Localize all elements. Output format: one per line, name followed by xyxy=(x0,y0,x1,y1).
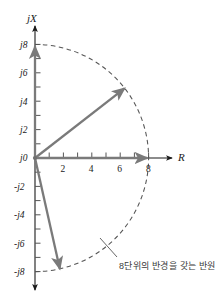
phasor-vectors xyxy=(33,47,147,269)
y-tick-label-j2: j2 xyxy=(18,125,28,135)
y-tick-label-neg-j6: -j6 xyxy=(14,239,25,249)
y-tick-label-neg-j2: -j2 xyxy=(14,182,25,192)
y-tick-label-neg-j8: -j8 xyxy=(14,267,25,277)
semicircle-caption: 8단위의 반경을 갖는 반원 xyxy=(119,259,216,272)
origin-dot xyxy=(33,156,37,160)
y-tick-label-j0: j0 xyxy=(18,153,28,163)
x-tick-label-4: 4 xyxy=(89,164,94,174)
vector-lower-right xyxy=(35,158,60,269)
real-axis-label: R xyxy=(177,151,185,163)
x-tick-label-8: 8 xyxy=(146,164,151,174)
y-tick-label-neg-j4: -j4 xyxy=(14,210,25,220)
imaginary-axis-label: jX xyxy=(25,12,38,24)
vector-upper-right xyxy=(35,88,125,158)
x-tick-label-6: 6 xyxy=(117,164,122,174)
caption-leader-line xyxy=(100,238,117,257)
plot-canvas: jX R 2 4 6 8 j8 j6 j4 j2 j0 -j2 -j4 -j6 … xyxy=(0,0,219,301)
y-tick-label-j4: j4 xyxy=(18,97,28,107)
y-tick-label-j6: j6 xyxy=(18,68,28,78)
complex-plane-figure: jX R 2 4 6 8 j8 j6 j4 j2 j0 -j2 -j4 -j6 … xyxy=(0,0,219,301)
x-tick-label-2: 2 xyxy=(60,164,65,174)
y-tick-label-j8: j8 xyxy=(18,40,28,50)
